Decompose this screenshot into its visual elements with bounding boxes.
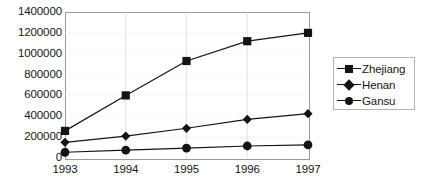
x-axis-tick-label: 1997 <box>278 163 338 176</box>
data-point-marker <box>304 141 313 150</box>
legend-key-marker <box>343 79 354 90</box>
x-axis-tick-label: 1993 <box>35 163 95 176</box>
legend-item-label: Gansu <box>362 95 395 108</box>
data-point-marker <box>121 146 130 155</box>
legend-item-zhejiang[interactable]: Zhejiang <box>336 61 412 77</box>
y-axis-tick-label: 800000 <box>0 69 62 81</box>
data-point-marker <box>122 91 130 99</box>
y-axis-tick-label: 0 <box>0 152 62 164</box>
x-axis-tick-label: 1995 <box>157 163 217 176</box>
y-axis-tick-label: 400000 <box>0 110 62 122</box>
x-axis-tick-label: 1996 <box>217 163 277 176</box>
data-point-marker <box>243 142 252 151</box>
y-axis-tick-label: 200000 <box>0 131 62 143</box>
data-point-marker <box>182 124 191 133</box>
x-axis-tick-label: 1994 <box>96 163 156 176</box>
legend-item-label: Henan <box>362 79 395 92</box>
data-point-marker <box>303 109 312 118</box>
line-chart: 0200000400000600000800000100000012000001… <box>0 0 424 193</box>
y-axis-tick-label: 600000 <box>0 89 62 101</box>
plot-canvas <box>65 12 308 158</box>
chart-legend: ZhejiangHenanGansu <box>333 57 415 110</box>
legend-key-marker <box>345 97 353 105</box>
data-point-marker <box>121 132 130 141</box>
y-axis-tick-label: 1200000 <box>0 27 62 39</box>
y-axis-tick-label: 1400000 <box>0 6 62 18</box>
legend-item-henan[interactable]: Henan <box>336 77 412 93</box>
legend-item-gansu[interactable]: Gansu <box>336 93 412 109</box>
data-point-marker <box>243 115 252 124</box>
data-point-marker <box>61 127 69 135</box>
y-axis-tick-label: 1000000 <box>0 48 62 60</box>
diamond-marker-icon <box>336 78 362 92</box>
data-point-marker <box>61 148 70 157</box>
x-axis-tick-labels: 19931994199519961997 <box>0 163 424 187</box>
square-marker-icon <box>336 62 362 76</box>
legend-item-label: Zhejiang <box>362 63 405 76</box>
data-point-marker <box>182 144 191 153</box>
circle-marker-icon <box>336 94 362 108</box>
legend-key-marker <box>345 65 353 73</box>
data-point-marker <box>243 37 251 45</box>
data-point-marker <box>182 57 190 65</box>
data-point-marker <box>304 29 312 37</box>
